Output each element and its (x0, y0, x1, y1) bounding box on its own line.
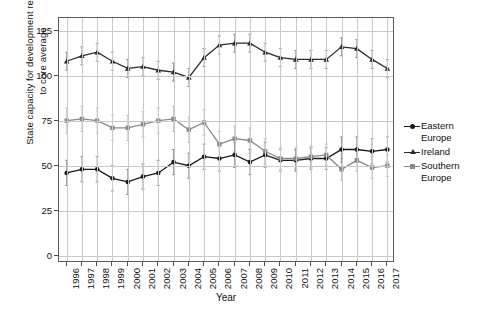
gridline-vertical (219, 18, 220, 261)
legend-label: Eastern Europe (421, 120, 494, 144)
x-tick-mark (188, 262, 189, 266)
y-tick-mark (54, 75, 58, 76)
x-tick-label: 2002 (161, 268, 172, 289)
x-tick-mark (111, 262, 112, 266)
x-tick-mark (173, 262, 174, 266)
gridline-horizontal (59, 166, 393, 167)
gridline-vertical (112, 18, 113, 261)
gridline-vertical (174, 18, 175, 261)
y-tick-label: 75 (26, 114, 52, 125)
x-tick-label: 1997 (85, 268, 96, 289)
gridline-horizontal (59, 256, 393, 257)
gridline-horizontal (59, 76, 393, 77)
x-tick-label: 1996 (70, 268, 81, 289)
x-tick-label: 1999 (115, 268, 126, 289)
y-tick-label: 100 (26, 69, 52, 80)
legend-marker-square-icon (404, 160, 421, 172)
gridline-vertical (128, 18, 129, 261)
legend-item-eastern-europe[interactable]: Eastern Europe (404, 120, 494, 144)
gridline-vertical (158, 18, 159, 261)
plot-svg (59, 18, 394, 262)
legend-label: Southern Europe (421, 160, 494, 184)
x-tick-mark (234, 262, 235, 266)
x-tick-mark (264, 262, 265, 266)
x-tick-mark (279, 262, 280, 266)
gridline-vertical (204, 18, 205, 261)
gridline-vertical (357, 18, 358, 261)
x-tick-mark (295, 262, 296, 266)
y-tick-mark (54, 255, 58, 256)
x-tick-label: 2017 (390, 268, 401, 289)
x-tick-mark (325, 262, 326, 266)
x-tick-label: 1998 (100, 268, 111, 289)
y-tick-mark (54, 120, 58, 121)
y-tick-label: 125 (26, 24, 52, 35)
gridline-vertical (82, 18, 83, 261)
x-tick-label: 2009 (268, 268, 279, 289)
y-tick-label: 50 (26, 159, 52, 170)
x-tick-label: 2004 (192, 268, 203, 289)
gridline-vertical (296, 18, 297, 261)
x-tick-label: 2006 (222, 268, 233, 289)
x-tick-label: 2001 (146, 268, 157, 289)
gridline-vertical (387, 18, 388, 261)
y-tick-label: 0 (26, 249, 52, 260)
x-tick-label: 2003 (177, 268, 188, 289)
y-tick-mark (54, 210, 58, 211)
x-tick-mark (310, 262, 311, 266)
gridline-vertical (372, 18, 373, 261)
x-tick-mark (127, 262, 128, 266)
y-tick-mark (54, 165, 58, 166)
gridline-vertical (250, 18, 251, 261)
x-tick-mark (356, 262, 357, 266)
gridline-vertical (280, 18, 281, 261)
y-axis-tick-labels: 0255075100125 (22, 0, 52, 316)
x-tick-mark (66, 262, 67, 266)
x-tick-label: 2008 (253, 268, 264, 289)
x-tick-label: 2000 (131, 268, 142, 289)
gridline-vertical (189, 18, 190, 261)
x-tick-mark (386, 262, 387, 266)
x-tick-mark (96, 262, 97, 266)
legend-marker-circle-icon (404, 120, 421, 132)
x-tick-mark (203, 262, 204, 266)
x-tick-label: 2016 (375, 268, 386, 289)
legend-marker-triangle-icon (404, 146, 421, 158)
gridline-horizontal (59, 121, 393, 122)
gridline-vertical (97, 18, 98, 261)
series-southern-europe (64, 106, 389, 180)
x-tick-label: 2012 (314, 268, 325, 289)
gridline-vertical (143, 18, 144, 261)
y-tick-label: 25 (26, 204, 52, 215)
gridline-vertical (235, 18, 236, 261)
chart-root: State capacity for development relative … (0, 0, 494, 316)
gridline-vertical (326, 18, 327, 261)
gridline-horizontal (59, 31, 393, 32)
legend-label: Ireland (421, 146, 494, 158)
gridline-vertical (67, 18, 68, 261)
gridline-horizontal (59, 211, 393, 212)
x-tick-mark (81, 262, 82, 266)
series-line (67, 119, 388, 169)
legend-item-ireland[interactable]: Ireland (404, 146, 494, 158)
gridline-vertical (311, 18, 312, 261)
chart-legend: Eastern EuropeIrelandSouthern Europe (404, 120, 494, 186)
x-tick-label: 2007 (238, 268, 249, 289)
x-tick-mark (341, 262, 342, 266)
x-tick-mark (157, 262, 158, 266)
x-tick-label: 2014 (345, 268, 356, 289)
x-axis-label: Year (58, 292, 394, 303)
gridline-vertical (342, 18, 343, 261)
gridline-vertical (265, 18, 266, 261)
x-tick-mark (249, 262, 250, 266)
x-tick-label: 2015 (360, 268, 371, 289)
plot-area (58, 17, 394, 262)
x-tick-label: 2005 (207, 268, 218, 289)
x-tick-mark (142, 262, 143, 266)
x-tick-label: 2011 (299, 268, 310, 288)
y-tick-mark (54, 30, 58, 31)
x-tick-label: 2010 (283, 268, 294, 289)
x-tick-mark (218, 262, 219, 266)
legend-item-southern-europe[interactable]: Southern Europe (404, 160, 494, 184)
x-tick-mark (371, 262, 372, 266)
